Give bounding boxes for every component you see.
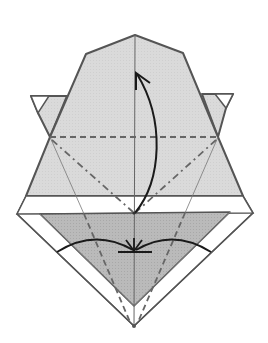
white-band (17, 196, 253, 214)
origami-diagram (0, 0, 268, 343)
bottom-tip (132, 324, 136, 328)
center-point (132, 211, 135, 214)
